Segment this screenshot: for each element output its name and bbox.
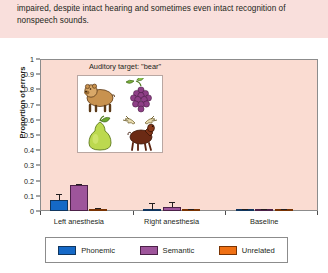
bear-icon: [80, 78, 120, 114]
legend-swatch-phonemic: [58, 246, 76, 255]
legend-label-unrelated: Unrelated: [242, 246, 275, 255]
legend-label-semantic: Semantic: [163, 246, 195, 255]
x-tick-mark: [40, 211, 41, 215]
x-tick-mark: [225, 211, 226, 215]
y-tick-label: 0.1: [24, 191, 34, 200]
stimulus-panel: [77, 75, 163, 153]
legend-item-phonemic: Phonemic: [58, 246, 115, 255]
x-tick-mark: [317, 211, 318, 215]
grapes-icon: [121, 78, 161, 114]
y-tick-label: 0.2: [24, 176, 34, 185]
y-tick-label: 1: [30, 55, 34, 64]
y-tick-label: 0: [30, 207, 34, 216]
stimulus-panel-title: Auditory target: "bear": [55, 62, 195, 71]
pear-icon: [80, 115, 120, 151]
chart-legend: Phonemic Semantic Unrelated: [45, 237, 288, 263]
intro-text-block: impaired, despite intact hearing and som…: [0, 0, 328, 38]
legend-item-unrelated: Unrelated: [219, 246, 275, 255]
y-axis-title: Proportion of errors: [18, 43, 27, 163]
x-axis-label: Left anesthesia: [54, 217, 104, 226]
x-axis-label: Right anesthesia: [144, 217, 199, 226]
x-axis: Left anesthesiaRight anesthesiaBaseline: [40, 211, 318, 233]
plot-area: Auditory target: "bear": [40, 59, 318, 211]
moose-icon: [121, 115, 161, 151]
legend-label-phonemic: Phonemic: [81, 246, 115, 255]
legend-item-semantic: Semantic: [140, 246, 195, 255]
legend-swatch-unrelated: [219, 246, 237, 255]
legend-swatch-semantic: [140, 246, 158, 255]
figure-container: 00.10.20.30.40.50.60.70.80.91 Proportion…: [0, 46, 328, 273]
x-tick-mark: [133, 211, 134, 215]
x-axis-label: Baseline: [250, 217, 278, 226]
intro-paragraph: impaired, despite intact hearing and som…: [17, 3, 307, 28]
